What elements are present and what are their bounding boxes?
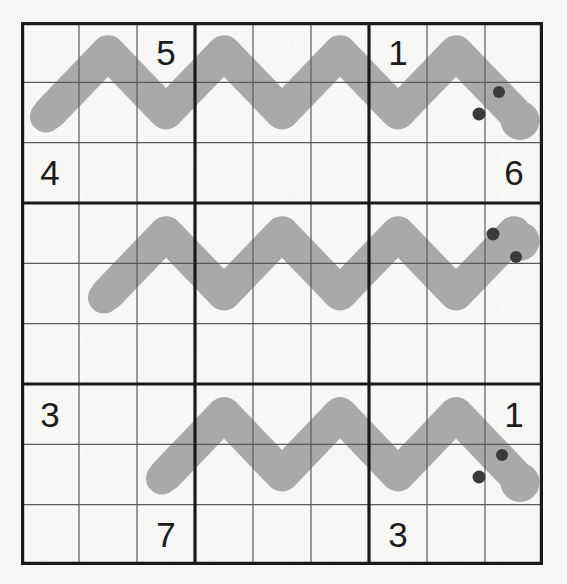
empty-cell-r7c2[interactable] bbox=[79, 384, 137, 444]
empty-cell-r7c7[interactable] bbox=[369, 384, 427, 444]
clue-cell-r7c1[interactable]: 3 bbox=[21, 384, 79, 444]
empty-cell-r6c5[interactable] bbox=[253, 324, 311, 384]
empty-cell-r2c5[interactable] bbox=[253, 82, 311, 142]
empty-cell-r2c9[interactable] bbox=[485, 82, 543, 142]
empty-cell-r4c3[interactable] bbox=[137, 203, 195, 263]
empty-cell-r9c1[interactable] bbox=[21, 505, 79, 565]
empty-cell-r4c4[interactable] bbox=[195, 203, 253, 263]
puzzle-page: 51463173 bbox=[0, 0, 567, 584]
empty-cell-r3c3[interactable] bbox=[137, 143, 195, 203]
clue-cell-r9c3[interactable]: 7 bbox=[137, 505, 195, 565]
empty-cell-r2c7[interactable] bbox=[369, 82, 427, 142]
empty-cell-r1c1[interactable] bbox=[21, 22, 79, 82]
empty-cell-r1c5[interactable] bbox=[253, 22, 311, 82]
empty-cell-r6c4[interactable] bbox=[195, 324, 253, 384]
clue-cell-r1c3[interactable]: 5 bbox=[137, 22, 195, 82]
empty-cell-r3c4[interactable] bbox=[195, 143, 253, 203]
empty-cell-r6c7[interactable] bbox=[369, 324, 427, 384]
empty-cell-r1c6[interactable] bbox=[311, 22, 369, 82]
empty-cell-r2c3[interactable] bbox=[137, 82, 195, 142]
empty-cell-r2c4[interactable] bbox=[195, 82, 253, 142]
empty-cell-r5c9[interactable] bbox=[485, 263, 543, 323]
empty-cell-r8c1[interactable] bbox=[21, 444, 79, 504]
empty-cell-r2c6[interactable] bbox=[311, 82, 369, 142]
empty-cell-r6c8[interactable] bbox=[427, 324, 485, 384]
empty-cell-r1c9[interactable] bbox=[485, 22, 543, 82]
empty-cell-r7c5[interactable] bbox=[253, 384, 311, 444]
empty-cell-r5c5[interactable] bbox=[253, 263, 311, 323]
empty-cell-r8c4[interactable] bbox=[195, 444, 253, 504]
empty-cell-r9c4[interactable] bbox=[195, 505, 253, 565]
empty-cell-r1c8[interactable] bbox=[427, 22, 485, 82]
empty-cell-r8c8[interactable] bbox=[427, 444, 485, 504]
empty-cell-r8c3[interactable] bbox=[137, 444, 195, 504]
clue-cell-r3c1[interactable]: 4 bbox=[21, 143, 79, 203]
cell-layer[interactable]: 51463173 bbox=[21, 22, 543, 565]
empty-cell-r2c2[interactable] bbox=[79, 82, 137, 142]
empty-cell-r6c1[interactable] bbox=[21, 324, 79, 384]
empty-cell-r5c8[interactable] bbox=[427, 263, 485, 323]
empty-cell-r5c7[interactable] bbox=[369, 263, 427, 323]
empty-cell-r8c9[interactable] bbox=[485, 444, 543, 504]
empty-cell-r8c6[interactable] bbox=[311, 444, 369, 504]
empty-cell-r7c4[interactable] bbox=[195, 384, 253, 444]
empty-cell-r4c1[interactable] bbox=[21, 203, 79, 263]
empty-cell-r4c5[interactable] bbox=[253, 203, 311, 263]
empty-cell-r5c3[interactable] bbox=[137, 263, 195, 323]
empty-cell-r9c2[interactable] bbox=[79, 505, 137, 565]
empty-cell-r5c2[interactable] bbox=[79, 263, 137, 323]
empty-cell-r9c9[interactable] bbox=[485, 505, 543, 565]
empty-cell-r4c2[interactable] bbox=[79, 203, 137, 263]
empty-cell-r3c7[interactable] bbox=[369, 143, 427, 203]
empty-cell-r8c7[interactable] bbox=[369, 444, 427, 504]
empty-cell-r4c9[interactable] bbox=[485, 203, 543, 263]
empty-cell-r7c3[interactable] bbox=[137, 384, 195, 444]
clue-cell-r7c9[interactable]: 1 bbox=[485, 384, 543, 444]
empty-cell-r3c2[interactable] bbox=[79, 143, 137, 203]
empty-cell-r5c1[interactable] bbox=[21, 263, 79, 323]
empty-cell-r9c6[interactable] bbox=[311, 505, 369, 565]
empty-cell-r6c3[interactable] bbox=[137, 324, 195, 384]
empty-cell-r8c5[interactable] bbox=[253, 444, 311, 504]
empty-cell-r2c8[interactable] bbox=[427, 82, 485, 142]
empty-cell-r3c6[interactable] bbox=[311, 143, 369, 203]
sudoku-grid[interactable]: 51463173 bbox=[21, 22, 543, 565]
empty-cell-r1c4[interactable] bbox=[195, 22, 253, 82]
empty-cell-r3c8[interactable] bbox=[427, 143, 485, 203]
empty-cell-r8c2[interactable] bbox=[79, 444, 137, 504]
empty-cell-r6c9[interactable] bbox=[485, 324, 543, 384]
empty-cell-r9c8[interactable] bbox=[427, 505, 485, 565]
clue-cell-r3c9[interactable]: 6 bbox=[485, 143, 543, 203]
empty-cell-r4c6[interactable] bbox=[311, 203, 369, 263]
empty-cell-r5c6[interactable] bbox=[311, 263, 369, 323]
empty-cell-r2c1[interactable] bbox=[21, 82, 79, 142]
empty-cell-r6c2[interactable] bbox=[79, 324, 137, 384]
empty-cell-r1c2[interactable] bbox=[79, 22, 137, 82]
clue-cell-r9c7[interactable]: 3 bbox=[369, 505, 427, 565]
empty-cell-r4c7[interactable] bbox=[369, 203, 427, 263]
clue-cell-r1c7[interactable]: 1 bbox=[369, 22, 427, 82]
empty-cell-r7c6[interactable] bbox=[311, 384, 369, 444]
empty-cell-r6c6[interactable] bbox=[311, 324, 369, 384]
empty-cell-r3c5[interactable] bbox=[253, 143, 311, 203]
empty-cell-r4c8[interactable] bbox=[427, 203, 485, 263]
empty-cell-r9c5[interactable] bbox=[253, 505, 311, 565]
empty-cell-r5c4[interactable] bbox=[195, 263, 253, 323]
empty-cell-r7c8[interactable] bbox=[427, 384, 485, 444]
